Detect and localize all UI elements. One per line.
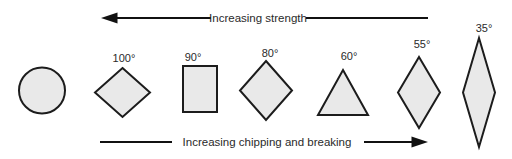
diamond-100-shape xyxy=(95,68,150,117)
increasing-chipping-arrow: Increasing chipping and breaking xyxy=(100,136,428,148)
triangle-60-shape xyxy=(318,70,368,115)
shape-diamond-80: 80° xyxy=(240,47,292,120)
shape-square-90: 90° xyxy=(183,51,217,112)
increasing-chipping-label: Increasing chipping and breaking xyxy=(183,136,352,148)
circle-shape xyxy=(19,68,65,114)
angle-label-35: 35° xyxy=(476,22,493,34)
shape-diamond-35: 35° xyxy=(463,22,495,147)
shape-circle xyxy=(19,68,65,114)
shape-triangle-60: 60° xyxy=(318,50,368,115)
diagram-canvas: Increasing strength 100° 90° 80° 60° xyxy=(0,0,512,159)
angle-label-60: 60° xyxy=(341,50,358,62)
angle-label-80: 80° xyxy=(262,47,279,59)
angle-label-55: 55° xyxy=(414,38,431,50)
square-90-shape xyxy=(183,66,217,112)
increasing-strength-label: Increasing strength xyxy=(209,12,307,24)
tool-angle-diagram: Increasing strength 100° 90° 80° 60° xyxy=(0,0,512,159)
shape-diamond-55: 55° xyxy=(398,38,440,128)
diamond-35-shape xyxy=(463,38,495,147)
shape-diamond-100: 100° xyxy=(95,52,150,117)
increasing-strength-arrow: Increasing strength xyxy=(101,12,428,24)
angle-label-90: 90° xyxy=(185,51,202,63)
diamond-55-shape xyxy=(398,57,440,128)
arrowhead-right-icon xyxy=(412,137,429,148)
angle-label-100: 100° xyxy=(113,52,136,64)
diamond-80-shape xyxy=(240,61,292,120)
